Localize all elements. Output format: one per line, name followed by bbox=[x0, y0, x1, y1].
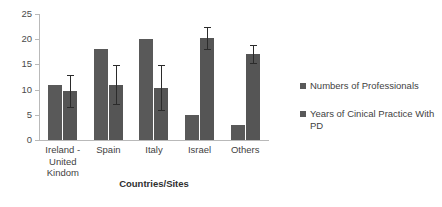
x-category-label-line: Israel bbox=[177, 144, 223, 156]
x-category-label-line: Others bbox=[222, 144, 268, 156]
legend-item-label: Numbers of Professionals bbox=[310, 80, 440, 92]
error-bar bbox=[207, 27, 208, 49]
x-category-label-line: Ireland - bbox=[40, 144, 86, 156]
legend-item-years-of-clinical-practice[interactable]: Years of Cinical Practice With PD bbox=[300, 108, 440, 132]
error-bar-cap bbox=[113, 104, 120, 105]
bar-group bbox=[131, 14, 177, 140]
bar[interactable] bbox=[48, 85, 62, 140]
legend-swatch-icon bbox=[300, 83, 306, 89]
error-bar-cap bbox=[113, 65, 120, 66]
y-tick-label: 20 bbox=[0, 34, 32, 44]
x-category-label: Ireland -UnitedKindom bbox=[40, 144, 86, 179]
bar-chart: 0510152025 Ireland -UnitedKindomSpainIta… bbox=[0, 0, 442, 207]
x-category-label: Israel bbox=[177, 144, 223, 156]
error-bar-cap bbox=[250, 45, 257, 46]
y-tick-mark bbox=[35, 140, 39, 141]
error-bar bbox=[253, 45, 254, 63]
bar-group bbox=[40, 14, 86, 140]
plot-area bbox=[40, 14, 268, 140]
x-axis-title: Countries/Sites bbox=[40, 178, 268, 189]
error-bar-cap bbox=[204, 49, 211, 50]
error-bar bbox=[161, 65, 162, 109]
x-axis-line bbox=[39, 140, 269, 141]
x-category-label-line: United bbox=[40, 156, 86, 168]
x-category-label: Others bbox=[222, 144, 268, 156]
x-category-label-line: Italy bbox=[131, 144, 177, 156]
error-bar-cap bbox=[158, 110, 165, 111]
error-bar-cap bbox=[250, 63, 257, 64]
x-category-label: Italy bbox=[131, 144, 177, 156]
y-tick-mark bbox=[35, 64, 39, 65]
chart-legend: Numbers of Professionals Years of Cinica… bbox=[300, 80, 440, 148]
y-tick-label: 25 bbox=[0, 9, 32, 19]
bar-group bbox=[177, 14, 223, 140]
y-tick-mark bbox=[35, 90, 39, 91]
error-bar bbox=[70, 75, 71, 106]
bar[interactable] bbox=[231, 125, 245, 140]
bar[interactable] bbox=[246, 54, 260, 140]
legend-item-label: Years of Cinical Practice With PD bbox=[310, 108, 440, 132]
x-category-label: Spain bbox=[86, 144, 132, 156]
bar[interactable] bbox=[185, 115, 199, 140]
bar[interactable] bbox=[94, 49, 108, 140]
bar-group bbox=[86, 14, 132, 140]
y-tick-mark bbox=[35, 39, 39, 40]
error-bar-cap bbox=[67, 75, 74, 76]
y-tick-mark bbox=[35, 115, 39, 116]
y-tick-label: 5 bbox=[0, 110, 32, 120]
y-tick-label: 10 bbox=[0, 85, 32, 95]
error-bar bbox=[116, 65, 117, 104]
y-tick-label: 0 bbox=[0, 135, 32, 145]
y-tick-label: 15 bbox=[0, 59, 32, 69]
legend-swatch-icon bbox=[300, 111, 306, 117]
y-tick-mark bbox=[35, 14, 39, 15]
legend-item-numbers-of-professionals[interactable]: Numbers of Professionals bbox=[300, 80, 440, 92]
bar-group bbox=[222, 14, 268, 140]
error-bar-cap bbox=[204, 27, 211, 28]
bar[interactable] bbox=[139, 39, 153, 140]
error-bar-cap bbox=[158, 65, 165, 66]
error-bar-cap bbox=[67, 107, 74, 108]
x-category-label-line: Kindom bbox=[40, 167, 86, 179]
bar[interactable] bbox=[200, 38, 214, 140]
x-category-label-line: Spain bbox=[86, 144, 132, 156]
